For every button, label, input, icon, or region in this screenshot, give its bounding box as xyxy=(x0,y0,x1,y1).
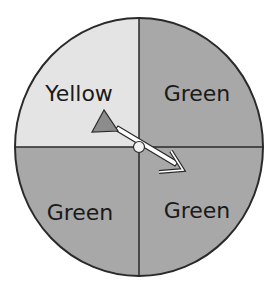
pivot-icon xyxy=(134,142,145,153)
section-yellow xyxy=(0,0,139,147)
section-green-top-right xyxy=(139,0,276,147)
spinner: Yellow Green Green Green xyxy=(0,0,276,290)
section-label-green-bottom-right: Green xyxy=(164,198,231,223)
section-label-green-top-right: Green xyxy=(164,81,231,106)
section-label-yellow: Yellow xyxy=(44,81,113,106)
section-label-green-bottom-left: Green xyxy=(47,200,114,225)
